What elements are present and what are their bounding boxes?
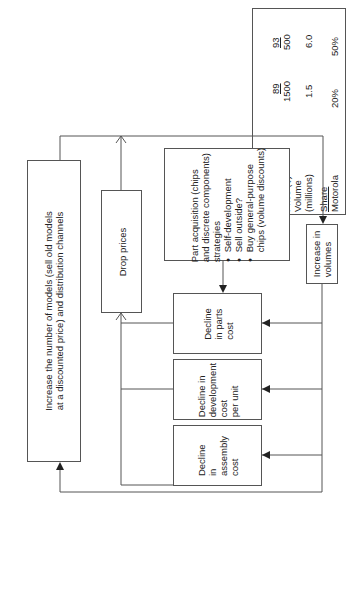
decline-parts-line3: cost: [223, 308, 234, 340]
decline-dev-line4: per unit: [229, 362, 240, 416]
arrow-into-volumes: [319, 216, 327, 224]
decline-parts-box: Decline in parts cost: [173, 293, 262, 354]
bullet-sell-outside: Sell outside?: [233, 147, 244, 252]
decline-dev-line3: cost: [218, 362, 229, 416]
decline-asm-line1: Decline: [196, 435, 207, 475]
decline-development-box: Decline in development cost per unit: [173, 359, 262, 420]
volume-label: Volume: [292, 180, 303, 212]
increase-models-line1: Increase the number of models (sell old …: [43, 211, 54, 411]
volume-93: 6.0: [303, 35, 314, 48]
decline-assembly-box: Decline in assembly cost: [173, 425, 262, 486]
decline-asm-line2: in: [207, 435, 218, 475]
year-89: 89: [270, 83, 281, 94]
increase-volumes-line1: Increase in: [311, 231, 322, 277]
arrow-into-big-box: [56, 462, 64, 470]
volume-89: 1.5: [303, 85, 314, 98]
decline-dev-line1: Decline in: [196, 362, 207, 416]
open-arrow-drop: [116, 313, 126, 320]
decline-asm-line3: assembly: [218, 435, 229, 475]
price-89: 1500: [281, 81, 292, 102]
arrow-into-decline-parts: [219, 285, 227, 293]
part-acquisition-box: Part acquisition (chips and discrete com…: [164, 148, 290, 261]
increase-models-box: Increase the number of models (sell old …: [27, 160, 81, 462]
share-title: Share: [318, 187, 329, 212]
decline-parts-line2: in parts: [212, 308, 223, 340]
part-acq-line2: and discrete components): [200, 147, 211, 262]
increase-volumes-line2: volumes: [322, 231, 333, 277]
arrow-into-asm-right: [262, 451, 270, 459]
increase-models-line2: at a discounted price) and distribution …: [54, 211, 65, 411]
drop-prices-box: Drop prices: [101, 190, 142, 313]
arrow-into-dev-right: [262, 385, 270, 393]
motorola-label: Motorola: [329, 175, 340, 212]
bullet-self-development: Self-development: [222, 147, 233, 252]
part-acq-line1: Part acquisition (chips: [189, 147, 200, 262]
bullet-buy-general: Buy general-purpose: [244, 147, 255, 252]
decline-asm-line4: cost: [229, 435, 240, 475]
open-arrow-top: [116, 136, 126, 143]
decline-parts-line1: Decline: [201, 308, 212, 340]
price-93: 500: [281, 34, 292, 50]
motorola-93: 50%: [329, 37, 340, 56]
arrow-into-parts-right: [262, 319, 270, 327]
year-93: 93: [270, 37, 281, 48]
part-acq-line3: strategies: [211, 147, 222, 262]
motorola-89: 20%: [329, 89, 340, 108]
part-acq-bullets: Self-development Sell outside? Buy gener…: [222, 147, 255, 262]
drop-prices-label: Drop prices: [116, 227, 127, 276]
increase-volumes-box: Increase in volumes: [306, 224, 338, 284]
millions-label: (millions): [303, 174, 314, 212]
decline-dev-line2: development: [207, 362, 218, 416]
part-acq-last-line: chips (volume discounts): [255, 147, 266, 262]
